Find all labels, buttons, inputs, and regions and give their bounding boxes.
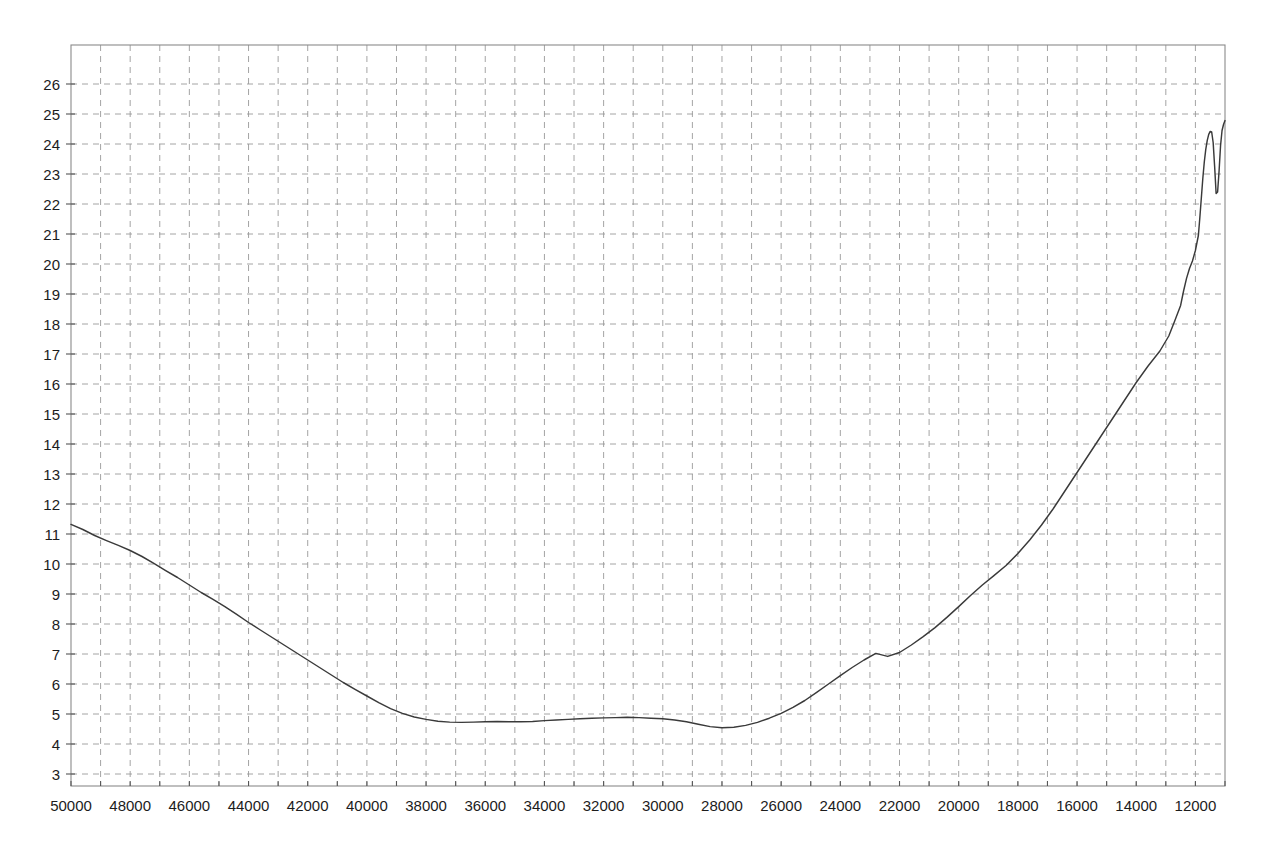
y-tick-label: 3	[52, 766, 60, 783]
x-tick-label: 26000	[760, 797, 802, 814]
x-tick-label: 20000	[938, 797, 980, 814]
line-chart: 2625242322212019181716151413121110987654…	[0, 0, 1271, 854]
x-tick-label: 32000	[583, 797, 625, 814]
y-tick-label: 22	[43, 196, 60, 213]
y-tick-label: 9	[52, 586, 60, 603]
x-tick-label: 48000	[109, 797, 151, 814]
y-tick-label: 5	[52, 706, 60, 723]
x-tick-label: 30000	[642, 797, 684, 814]
x-tick-label: 44000	[228, 797, 270, 814]
y-tick-label: 11	[44, 526, 60, 543]
x-tick-label: 14000	[1115, 797, 1157, 814]
y-tick-label: 14	[43, 436, 60, 453]
y-tick-label: 7	[52, 646, 60, 663]
y-tick-label: 4	[52, 736, 60, 753]
x-tick-label: 50000	[50, 797, 92, 814]
y-tick-label: 15	[43, 406, 60, 423]
y-tick-label: 23	[43, 166, 60, 183]
x-tick-label: 16000	[1056, 797, 1098, 814]
y-tick-label: 26	[43, 76, 60, 93]
chart-container: 2625242322212019181716151413121110987654…	[0, 0, 1271, 854]
y-tick-label: 10	[43, 556, 60, 573]
x-tick-label: 22000	[879, 797, 921, 814]
y-tick-label: 17	[43, 346, 60, 363]
y-tick-label: 8	[52, 616, 60, 633]
x-tick-label: 42000	[287, 797, 329, 814]
chart-background	[0, 0, 1271, 854]
x-tick-label: 18000	[997, 797, 1039, 814]
x-tick-label: 12000	[1175, 797, 1217, 814]
y-tick-label: 24	[43, 136, 60, 153]
x-tick-label: 34000	[524, 797, 566, 814]
x-tick-label: 38000	[405, 797, 447, 814]
y-tick-label: 19	[43, 286, 60, 303]
y-tick-label: 21	[43, 226, 60, 243]
x-tick-label: 40000	[346, 797, 388, 814]
x-tick-label: 24000	[819, 797, 861, 814]
x-tick-label: 36000	[464, 797, 506, 814]
y-tick-label: 25	[43, 106, 60, 123]
y-tick-label: 20	[43, 256, 60, 273]
y-tick-label: 18	[43, 316, 60, 333]
y-tick-label: 12	[43, 496, 60, 513]
x-tick-label: 46000	[168, 797, 210, 814]
y-tick-label: 6	[52, 676, 60, 693]
y-tick-label: 16	[43, 376, 60, 393]
y-tick-label: 13	[43, 466, 60, 483]
x-tick-label: 28000	[701, 797, 743, 814]
